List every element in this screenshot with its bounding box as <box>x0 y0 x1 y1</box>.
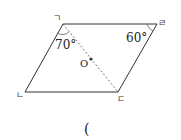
angle-label-60: 60° <box>126 31 147 45</box>
parallelogram-diagram: ㄱ ㄹ ㄷ ㄴ 70° 60° O ( <box>0 0 181 140</box>
point-dot <box>89 57 92 60</box>
angle-label-70: 70° <box>55 38 76 52</box>
vertex-label-top-left: ㄱ <box>53 13 61 23</box>
vertex-label-bottom-right: ㄷ <box>117 94 125 104</box>
vertex-label-bottom-left: ㄴ <box>16 90 24 100</box>
point-label-o: O <box>80 58 88 69</box>
answer-open-paren: ( <box>84 121 89 137</box>
angle-arc-60 <box>147 24 153 31</box>
vertex-label-top-right: ㄹ <box>158 18 166 28</box>
